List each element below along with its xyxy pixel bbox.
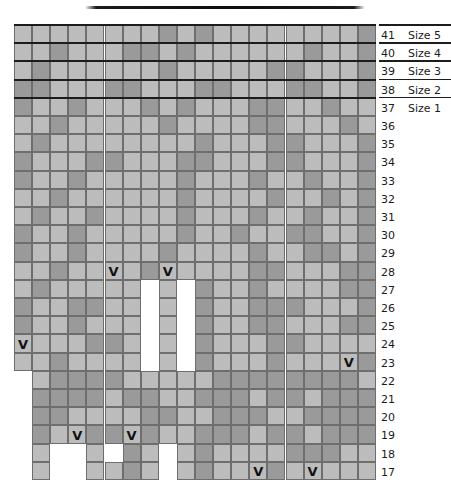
chart-cell[interactable] xyxy=(249,98,267,116)
chart-cell[interactable] xyxy=(231,444,249,462)
chart-cell[interactable] xyxy=(123,353,141,371)
chart-cell[interactable] xyxy=(304,298,322,316)
chart-cell[interactable] xyxy=(267,407,285,425)
chart-cell[interactable] xyxy=(68,425,86,443)
chart-cell[interactable] xyxy=(105,425,123,443)
chart-cell[interactable] xyxy=(249,425,267,443)
chart-cell[interactable] xyxy=(213,134,231,152)
chart-cell[interactable] xyxy=(231,462,249,480)
chart-cell[interactable] xyxy=(340,316,358,334)
chart-cell[interactable] xyxy=(340,462,358,480)
chart-cell[interactable] xyxy=(286,462,304,480)
chart-cell[interactable] xyxy=(213,61,231,79)
chart-cell[interactable] xyxy=(267,353,285,371)
chart-cell[interactable] xyxy=(50,243,68,261)
chart-cell[interactable] xyxy=(141,225,159,243)
chart-cell[interactable] xyxy=(141,171,159,189)
chart-cell[interactable] xyxy=(123,134,141,152)
chart-cell[interactable] xyxy=(50,407,68,425)
chart-cell[interactable] xyxy=(177,61,195,79)
chart-cell[interactable] xyxy=(322,207,340,225)
chart-cell[interactable] xyxy=(195,171,213,189)
chart-cell[interactable] xyxy=(105,152,123,170)
chart-cell[interactable] xyxy=(141,152,159,170)
chart-cell[interactable] xyxy=(141,371,159,389)
chart-cell[interactable] xyxy=(68,280,86,298)
chart-cell[interactable] xyxy=(177,189,195,207)
chart-cell[interactable] xyxy=(249,371,267,389)
chart-cell[interactable] xyxy=(32,225,50,243)
chart-cell[interactable] xyxy=(141,61,159,79)
chart-cell[interactable] xyxy=(340,152,358,170)
chart-cell[interactable] xyxy=(213,189,231,207)
chart-cell[interactable] xyxy=(14,43,32,61)
chart-cell[interactable] xyxy=(86,334,104,352)
chart-cell[interactable] xyxy=(286,298,304,316)
chart-cell[interactable] xyxy=(141,98,159,116)
chart-cell[interactable] xyxy=(231,353,249,371)
chart-cell[interactable] xyxy=(358,298,376,316)
chart-cell[interactable] xyxy=(231,134,249,152)
chart-cell[interactable] xyxy=(322,316,340,334)
chart-cell[interactable] xyxy=(32,353,50,371)
chart-cell[interactable] xyxy=(249,25,267,43)
chart-cell[interactable] xyxy=(50,43,68,61)
chart-cell[interactable] xyxy=(68,134,86,152)
chart-cell[interactable] xyxy=(177,243,195,261)
chart-cell[interactable] xyxy=(213,152,231,170)
chart-cell[interactable] xyxy=(267,152,285,170)
chart-cell[interactable] xyxy=(249,298,267,316)
chart-cell[interactable] xyxy=(304,98,322,116)
chart-cell[interactable] xyxy=(213,334,231,352)
chart-cell[interactable] xyxy=(123,462,141,480)
chart-cell[interactable] xyxy=(177,389,195,407)
chart-cell[interactable] xyxy=(340,61,358,79)
chart-cell[interactable] xyxy=(68,116,86,134)
chart-cell[interactable] xyxy=(32,243,50,261)
chart-cell[interactable] xyxy=(286,61,304,79)
chart-cell[interactable] xyxy=(304,43,322,61)
chart-cell[interactable] xyxy=(14,316,32,334)
chart-cell[interactable] xyxy=(213,262,231,280)
chart-cell[interactable] xyxy=(141,243,159,261)
chart-cell[interactable] xyxy=(105,262,123,280)
chart-cell[interactable] xyxy=(358,43,376,61)
chart-cell[interactable] xyxy=(304,243,322,261)
chart-cell[interactable] xyxy=(195,61,213,79)
chart-cell[interactable] xyxy=(231,262,249,280)
chart-cell[interactable] xyxy=(304,25,322,43)
chart-cell[interactable] xyxy=(68,407,86,425)
chart-cell[interactable] xyxy=(249,43,267,61)
chart-cell[interactable] xyxy=(141,425,159,443)
chart-cell[interactable] xyxy=(159,43,177,61)
chart-cell[interactable] xyxy=(358,207,376,225)
chart-cell[interactable] xyxy=(358,462,376,480)
chart-cell[interactable] xyxy=(14,243,32,261)
chart-cell[interactable] xyxy=(68,334,86,352)
chart-cell[interactable] xyxy=(304,80,322,98)
chart-cell[interactable] xyxy=(195,225,213,243)
chart-cell[interactable] xyxy=(86,134,104,152)
chart-cell[interactable] xyxy=(213,243,231,261)
chart-cell[interactable] xyxy=(50,371,68,389)
chart-cell[interactable] xyxy=(86,98,104,116)
chart-cell[interactable] xyxy=(86,262,104,280)
chart-cell[interactable] xyxy=(123,61,141,79)
chart-cell[interactable] xyxy=(50,171,68,189)
chart-cell[interactable] xyxy=(249,225,267,243)
chart-cell[interactable] xyxy=(195,262,213,280)
chart-cell[interactable] xyxy=(32,280,50,298)
chart-cell[interactable] xyxy=(50,61,68,79)
chart-cell[interactable] xyxy=(14,171,32,189)
chart-cell[interactable] xyxy=(358,425,376,443)
chart-cell[interactable] xyxy=(231,171,249,189)
chart-cell[interactable] xyxy=(32,334,50,352)
chart-cell[interactable] xyxy=(322,116,340,134)
chart-cell[interactable] xyxy=(68,98,86,116)
chart-cell[interactable] xyxy=(159,98,177,116)
chart-cell[interactable] xyxy=(68,225,86,243)
chart-cell[interactable] xyxy=(14,280,32,298)
chart-cell[interactable] xyxy=(358,25,376,43)
chart-cell[interactable] xyxy=(304,152,322,170)
chart-cell[interactable] xyxy=(86,371,104,389)
